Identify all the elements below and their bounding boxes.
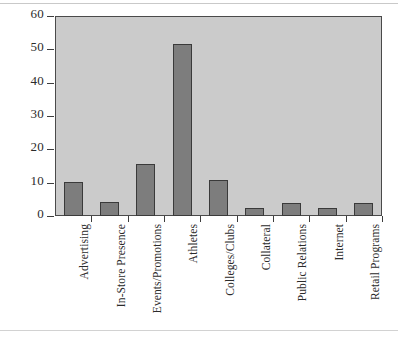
x-axis-label: Public Relations (296, 224, 308, 301)
x-tick-mark (91, 216, 92, 222)
x-axis-label: Events/Promotions (151, 224, 163, 313)
x-axis-label-text: Athletes (187, 224, 199, 263)
bar (318, 208, 337, 216)
bar (100, 202, 119, 216)
x-axis-label-text: Internet (333, 224, 345, 261)
x-tick-mark (237, 216, 238, 222)
y-tick-mark (47, 183, 54, 184)
x-axis-label: Retail Programs (369, 224, 381, 300)
x-tick-mark (382, 216, 383, 222)
y-axis: 0102030405060 (0, 0, 55, 232)
bar-chart: 0102030405060 AdvertisingIn-Store Presen… (0, 0, 398, 341)
y-tick-label: 50 (31, 40, 44, 53)
y-tick-mark (47, 149, 54, 150)
x-tick-mark (164, 216, 165, 222)
bar (245, 208, 264, 216)
y-tick-label: 20 (31, 140, 44, 153)
x-tick-mark (273, 216, 274, 222)
x-axis-label: Athletes (187, 224, 199, 263)
y-tick-mark (47, 49, 54, 50)
x-axis-label: Advertising (78, 224, 90, 279)
y-tick-label: 40 (31, 74, 44, 87)
x-axis-label-text: Advertising (78, 224, 90, 279)
y-tick-mark (47, 116, 54, 117)
y-tick-mark (47, 83, 54, 84)
x-axis-label-text: Colleges/Clubs (224, 224, 236, 296)
x-tick-mark (309, 216, 310, 222)
x-axis-label-text: Events/Promotions (151, 224, 163, 313)
x-axis-label: In-Store Presence (115, 224, 127, 307)
bar (64, 182, 83, 216)
x-tick-mark (346, 216, 347, 222)
x-axis-label-text: In-Store Presence (115, 224, 127, 307)
bar (282, 203, 301, 216)
bar (173, 44, 192, 216)
y-tick-label: 0 (37, 207, 44, 220)
x-tick-mark (200, 216, 201, 222)
y-tick-mark (47, 16, 54, 17)
x-axis-label: Collateral (260, 224, 272, 270)
x-axis-label-text: Retail Programs (369, 224, 381, 300)
y-tick-label: 10 (31, 174, 44, 187)
bar (354, 203, 373, 216)
y-tick-mark (47, 216, 54, 217)
bar (136, 164, 155, 216)
x-axis-label-text: Collateral (260, 224, 272, 270)
x-tick-mark (128, 216, 129, 222)
bar (209, 180, 228, 216)
y-tick-label: 60 (31, 7, 44, 20)
x-axis-label-text: Public Relations (296, 224, 308, 301)
y-tick-label: 30 (31, 107, 44, 120)
x-axis-label: Internet (333, 224, 345, 261)
x-axis-label: Colleges/Clubs (224, 224, 236, 296)
